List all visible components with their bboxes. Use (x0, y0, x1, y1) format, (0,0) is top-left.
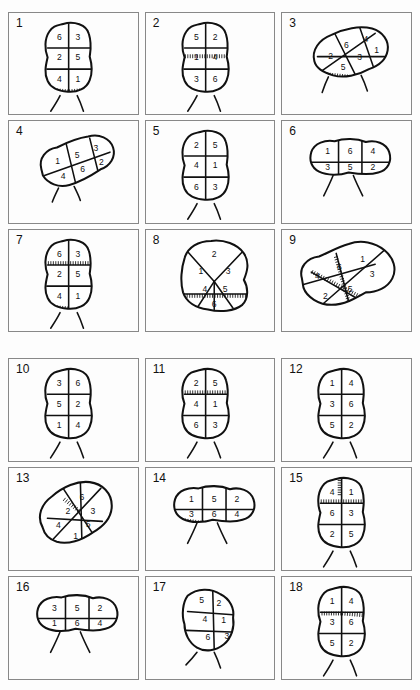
whisker-mark (214, 442, 220, 458)
whisker-mark (74, 187, 80, 201)
panel-5[interactable]: 5254163 (145, 120, 276, 223)
region-number: 6 (344, 40, 349, 50)
region-number: 2 (98, 603, 103, 613)
whisker-mark (187, 523, 196, 543)
region-number: 1 (221, 615, 226, 625)
panel-15[interactable]: 15416325 (281, 467, 412, 571)
region-number: 6 (330, 508, 335, 518)
region-number: 1 (349, 487, 354, 497)
panel-7[interactable]: 7632541 (8, 229, 139, 332)
region-number: 3 (326, 162, 331, 172)
region-number: 3 (52, 603, 57, 613)
region-number: 2 (65, 506, 70, 516)
region-number: 5 (349, 529, 354, 539)
panel-13[interactable]: 13632541 (8, 467, 139, 571)
region-number: 4 (212, 52, 217, 62)
panel-8[interactable]: 8213456 (145, 229, 276, 332)
region-number: 6 (212, 509, 217, 519)
whisker-mark (51, 96, 60, 112)
region-number: 4 (57, 74, 62, 84)
panel-11[interactable]: 11254163 (145, 358, 276, 462)
region-number: 1 (76, 74, 81, 84)
hatch-tick (190, 519, 191, 523)
region-number: 2 (323, 291, 328, 301)
blob-diagram: 254163 (146, 121, 275, 222)
region-number: 1 (212, 161, 217, 171)
region-number: 1 (55, 156, 60, 166)
region-number: 4 (349, 596, 354, 606)
region-number: 3 (358, 52, 363, 62)
whisker-mark (324, 176, 333, 196)
region-number: 1 (330, 378, 335, 388)
region-number: 6 (57, 249, 62, 259)
whisker-mark (187, 96, 196, 112)
blob-diagram: 521436 (146, 13, 275, 114)
region-number: 6 (76, 378, 81, 388)
panel-9[interactable]: 9164352 (281, 229, 412, 332)
region-number: 1 (57, 420, 62, 430)
blob-diagram: 632541 (9, 468, 138, 570)
panel-2[interactable]: 2521436 (145, 12, 276, 115)
whisker-mark (324, 551, 333, 567)
region-number: 6 (75, 618, 80, 628)
region-number: 2 (194, 141, 199, 151)
region-number: 5 (348, 162, 353, 172)
panel-12[interactable]: 12143652 (281, 358, 412, 462)
region-number: 5 (75, 150, 80, 160)
blob-diagram: 254163 (146, 359, 275, 461)
whisker-mark (51, 632, 60, 652)
blob-diagram: 524163 (146, 577, 275, 679)
region-number: 4 (202, 614, 207, 624)
region-number: 6 (57, 32, 62, 42)
region-number: 2 (212, 249, 217, 259)
figure-sheet: 1632541252143632641354153462525416361643… (0, 0, 420, 690)
panel-16[interactable]: 16352164 (8, 576, 139, 680)
region-number: 2 (57, 269, 62, 279)
region-number: 6 (349, 617, 354, 627)
panel-4[interactable]: 4153462 (8, 120, 139, 223)
whisker-mark (351, 442, 357, 458)
blob-diagram: 416325 (282, 468, 411, 570)
region-number: 3 (91, 506, 96, 516)
whisker-mark (351, 660, 357, 676)
panel-10[interactable]: 10365214 (8, 358, 139, 462)
region-number: 1 (361, 254, 366, 264)
region-number: 1 (189, 494, 194, 504)
region-number: 5 (76, 52, 81, 62)
blob-diagram: 264135 (282, 13, 411, 114)
region-number: 2 (329, 51, 334, 61)
whisker-mark (187, 442, 196, 458)
panel-18[interactable]: 18143652 (281, 576, 412, 680)
region-number: 4 (371, 147, 376, 157)
region-number: 4 (364, 34, 369, 44)
panel-17[interactable]: 17524163 (145, 576, 276, 680)
hatch-tick (195, 520, 196, 524)
region-number: 1 (198, 266, 203, 276)
region-number: 2 (57, 52, 62, 62)
panel-3[interactable]: 3264135 (281, 12, 412, 115)
region-number: 3 (226, 266, 231, 276)
whisker-mark (77, 96, 83, 112)
region-number: 5 (212, 494, 217, 504)
region-number: 5 (222, 283, 227, 293)
region-number: 2 (76, 399, 81, 409)
region-number: 4 (194, 161, 199, 171)
region-number: 1 (330, 596, 335, 606)
region-number: 3 (212, 420, 217, 430)
panel-6[interactable]: 6164352 (281, 120, 412, 223)
whisker-mark (77, 442, 83, 458)
blob-diagram: 632541 (9, 13, 138, 114)
region-number: 3 (76, 249, 81, 259)
whisker-mark (51, 312, 60, 328)
region-number: 6 (212, 299, 217, 309)
region-number: 3 (94, 144, 99, 154)
region-number: 1 (52, 618, 57, 628)
region-number: 5 (330, 638, 335, 648)
whisker-mark (217, 523, 226, 543)
panel-14[interactable]: 14152364 (145, 467, 276, 571)
whisker-mark (80, 632, 89, 652)
region-number: 3 (370, 269, 375, 279)
panel-1[interactable]: 1632541 (8, 12, 139, 115)
region-number: 6 (193, 420, 198, 430)
region-number: 4 (76, 420, 81, 430)
